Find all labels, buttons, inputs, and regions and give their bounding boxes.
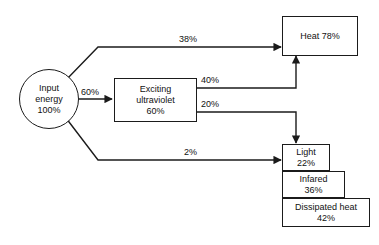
node-input-energy-line3: 100% [37, 105, 60, 116]
edge-label-40-percent: 40% [200, 75, 220, 85]
node-dissipated-heat-line2: 42% [317, 213, 335, 224]
node-exciting-ultraviolet-line2: ultraviolet [136, 95, 175, 106]
node-light[interactable]: Light 22% [282, 144, 330, 171]
node-input-energy[interactable]: Input energy 100% [19, 69, 79, 129]
node-dissipated-heat[interactable]: Dissipated heat 42% [282, 198, 370, 227]
edge-label-2-percent: 2% [183, 147, 198, 157]
node-infared-line2: 36% [304, 185, 322, 196]
energy-flow-diagram: Input energy 100% Exciting ultraviolet 6… [0, 0, 379, 245]
node-light-line1: Light [296, 147, 316, 158]
node-heat-line1: Heat 78% [300, 31, 340, 42]
node-heat[interactable]: Heat 78% [282, 16, 358, 56]
edge-input-to-light [66, 118, 281, 160]
node-infared[interactable]: Infared 36% [282, 171, 345, 198]
node-exciting-ultraviolet-line1: Exciting [140, 84, 172, 95]
node-input-energy-line1: Input [39, 83, 59, 94]
edge-label-20-percent: 20% [200, 99, 220, 109]
node-infared-line1: Infared [299, 174, 327, 185]
node-dissipated-heat-line1: Dissipated heat [295, 202, 357, 213]
edge-input-to-heat [66, 47, 281, 80]
node-input-energy-line2: energy [35, 94, 63, 105]
node-light-line2: 22% [297, 158, 315, 169]
edge-label-60-percent: 60% [80, 87, 100, 97]
edge-label-38-percent: 38% [178, 34, 198, 44]
node-exciting-ultraviolet-line3: 60% [146, 106, 164, 117]
node-exciting-ultraviolet[interactable]: Exciting ultraviolet 60% [114, 78, 197, 122]
edge-uv-to-light [196, 112, 296, 143]
